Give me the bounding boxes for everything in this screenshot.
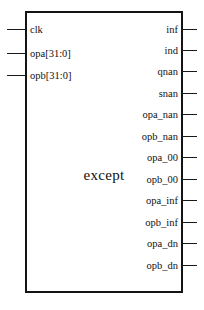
output-pin-opa_00: opa_00 — [0, 151, 204, 165]
output-pin-label: opb_dn — [147, 259, 179, 273]
output-pin-label: opa_dn — [147, 237, 178, 251]
pin-wire-icon — [182, 265, 197, 266]
pin-wire-icon — [182, 179, 197, 180]
pin-wire-icon — [182, 114, 197, 115]
output-pin-label: qnan — [158, 65, 178, 79]
pin-wire-icon — [182, 93, 197, 94]
output-pin-label: opb_00 — [147, 173, 179, 187]
figure-canvas: except clkopa[31:0]opb[31:0] infindqnans… — [0, 0, 204, 310]
output-pin-opb_00: opb_00 — [0, 173, 204, 187]
output-pin-label: opb_nan — [142, 130, 178, 144]
output-pin-opb_dn: opb_dn — [0, 259, 204, 273]
output-pin-opa_inf: opa_inf — [0, 194, 204, 208]
output-pin-label: snan — [159, 87, 178, 101]
pin-wire-icon — [182, 222, 197, 223]
output-pin-label: opa_inf — [146, 194, 178, 208]
pin-wire-icon — [182, 200, 197, 201]
output-pin-label: opb_inf — [145, 216, 178, 230]
pin-wire-icon — [182, 29, 197, 30]
output-pin-opa_nan: opa_nan — [0, 108, 204, 122]
output-pin-label: inf — [166, 23, 178, 37]
output-pin-label: ind — [165, 44, 178, 58]
output-pin-qnan: qnan — [0, 65, 204, 79]
output-pin-label: opa_00 — [147, 151, 178, 165]
output-pin-snan: snan — [0, 87, 204, 101]
output-pin-inf: inf — [0, 23, 204, 37]
output-pin-label: opa_nan — [142, 108, 178, 122]
output-pin-opa_dn: opa_dn — [0, 237, 204, 251]
pin-wire-icon — [182, 50, 197, 51]
pin-wire-icon — [182, 243, 197, 244]
output-pin-ind: ind — [0, 44, 204, 58]
figure-caption — [0, 300, 204, 310]
pin-wire-icon — [182, 71, 197, 72]
pin-wire-icon — [182, 157, 197, 158]
pin-wire-icon — [182, 136, 197, 137]
output-pin-opb_nan: opb_nan — [0, 130, 204, 144]
output-pin-opb_inf: opb_inf — [0, 216, 204, 230]
